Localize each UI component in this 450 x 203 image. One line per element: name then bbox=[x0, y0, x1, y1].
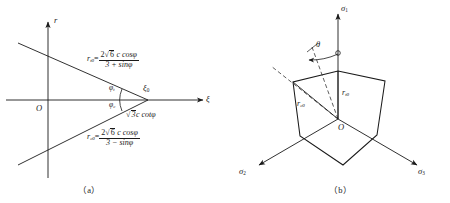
caption-panel-a: （a） bbox=[78, 183, 100, 195]
radius-compression-sub: c0 bbox=[300, 103, 305, 108]
radius-compression-label: rc0 bbox=[297, 100, 305, 109]
radical-sign: √ bbox=[126, 111, 130, 119]
equation-compression-radius: rc0= 2√6 c cosφ 3 − sinφ bbox=[87, 128, 140, 147]
apex-label-xi0: ξ0 bbox=[143, 84, 149, 93]
eq-lower-fraction: 2√6 c cosφ 3 − sinφ bbox=[99, 128, 140, 147]
eq-lower-num-radical: √ bbox=[105, 129, 109, 138]
eq-upper-num-post: c cosφ bbox=[114, 50, 137, 59]
sigma2-sub: 2 bbox=[243, 170, 246, 176]
apex-distance-rest: c cotφ bbox=[136, 110, 156, 119]
eq-upper-fraction: 2√6 c cosφ 3 + sinφ bbox=[99, 50, 140, 69]
eq-upper-num-radical: √ bbox=[105, 51, 109, 60]
angle-phi-t-sub: t bbox=[113, 87, 114, 92]
angle-label-theta: θ bbox=[316, 40, 320, 49]
angle-label-phi-c: φc bbox=[109, 101, 115, 110]
panel-b-deviatoric-plane: σ1 σ2 σ3 θ rt0 rc0 O （b） bbox=[225, 0, 450, 203]
sigma1-sub: 1 bbox=[345, 7, 348, 13]
panel-a-meridian-plane: O r ξ ξ0 √3c cotφ φt φc rt0= 2√6 c cosφ … bbox=[0, 0, 225, 203]
eq-lower-denominator: 3 − sinφ bbox=[99, 138, 140, 148]
sigma3-sub: 3 bbox=[422, 170, 425, 176]
axis-sigma3 bbox=[338, 119, 417, 165]
equation-tension-radius: rt0= 2√6 c cosφ 3 + sinφ bbox=[87, 50, 139, 69]
theta-angle-arc bbox=[309, 54, 338, 60]
eq-lower-numerator: 2√6 c cosφ bbox=[99, 128, 140, 138]
figure-container: O r ξ ξ0 √3c cotφ φt φc rt0= 2√6 c cosφ … bbox=[0, 0, 450, 203]
axis-label-sigma1: σ1 bbox=[341, 4, 348, 13]
apex-distance-label: √3c cotφ bbox=[126, 110, 156, 119]
caption-panel-b: （b） bbox=[329, 183, 352, 195]
eq-lower-num-post: c cosφ bbox=[115, 128, 138, 137]
radius-tension-label: rt0 bbox=[342, 89, 349, 98]
axis-label-sigma3: σ3 bbox=[418, 167, 425, 176]
yield-locus-hexagon bbox=[293, 71, 385, 165]
angle-phi-c-sub: c bbox=[113, 104, 115, 109]
apex-label-sub: 0 bbox=[147, 87, 150, 93]
axis-label-sigma2: σ2 bbox=[239, 167, 246, 176]
origin-label-b: O bbox=[338, 123, 344, 132]
angle-label-phi-t: φt bbox=[109, 84, 114, 93]
eq-upper-lhs: rt0 bbox=[87, 54, 94, 63]
axis-label-r: r bbox=[54, 16, 57, 25]
axis-label-xi: ξ bbox=[206, 95, 210, 104]
eq-upper-numerator: 2√6 c cosφ bbox=[99, 50, 140, 60]
origin-label-a: O bbox=[36, 104, 42, 113]
radius-tension-sub: t0 bbox=[345, 92, 349, 97]
eq-lower-lhs: rc0 bbox=[87, 132, 95, 141]
panel-b-drawing bbox=[225, 0, 450, 203]
eq-upper-denominator: 3 + sinφ bbox=[99, 60, 140, 70]
